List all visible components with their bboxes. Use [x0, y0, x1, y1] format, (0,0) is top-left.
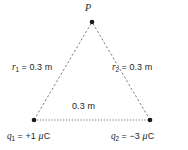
point-p-dot [90, 20, 95, 25]
q2-subscript: 2 [116, 135, 120, 142]
triangle-diagram-svg [0, 0, 188, 150]
r2-equals: = [120, 62, 130, 72]
figure-canvas: P r1=0.3 m r2=0.3 m 0.3 m q1=+1 μC q2=−3… [0, 0, 188, 150]
q2-unit: C [148, 131, 155, 141]
point-p-label: P [85, 2, 91, 14]
q1-equals: = [16, 131, 26, 141]
charge-q2-dot [148, 118, 153, 123]
r1-equals: = [20, 62, 30, 72]
base-distance-label: 0.3 m [72, 101, 95, 112]
q2-value: −3 [129, 131, 139, 141]
charge-q1-label: q1=+1 μC [7, 130, 50, 142]
point-p-symbol: P [85, 2, 91, 13]
q1-value: +1 [25, 131, 35, 141]
r1-unit: m [45, 62, 53, 72]
r2-subscript: 2 [116, 66, 120, 73]
q1-subscript: 1 [12, 135, 16, 142]
q1-unit: C [44, 131, 51, 141]
r2-value: 0.3 [129, 62, 142, 72]
distance-r2-label: r2=0.3 m [112, 62, 152, 73]
r1-subscript: 1 [16, 66, 20, 73]
r1-value: 0.3 [29, 62, 42, 72]
charge-q1-dot [32, 118, 37, 123]
distance-r1-label: r1=0.3 m [12, 62, 52, 73]
q2-equals: = [120, 131, 130, 141]
charge-q2-label: q2=−3 μC [111, 130, 154, 142]
r2-unit: m [145, 62, 153, 72]
